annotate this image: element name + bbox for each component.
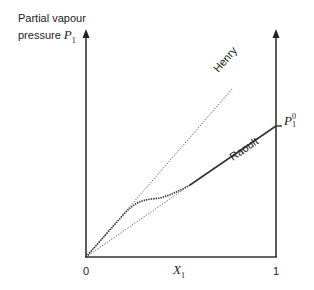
henry-line xyxy=(86,88,233,257)
phase-diagram: Henry Raoult xyxy=(0,0,314,290)
x-symbol-letter: X xyxy=(173,262,181,277)
raoult-ideal-dotted xyxy=(86,185,190,257)
henry-label: Henry xyxy=(211,44,240,74)
x-tick-end: 1 xyxy=(273,265,279,278)
p-sat-letter: P xyxy=(284,113,292,128)
x-symbol-sub: 1 xyxy=(181,271,185,280)
right-arrow-icon xyxy=(273,29,280,38)
left-arrow-icon xyxy=(83,29,90,38)
p-sat-label: P01 xyxy=(284,114,296,130)
x-axis-symbol: X1 xyxy=(173,263,185,282)
p-sat-sub: 1 xyxy=(292,121,296,129)
x-tick-start: 0 xyxy=(83,265,89,278)
raoult-label: Raoult xyxy=(227,135,260,163)
